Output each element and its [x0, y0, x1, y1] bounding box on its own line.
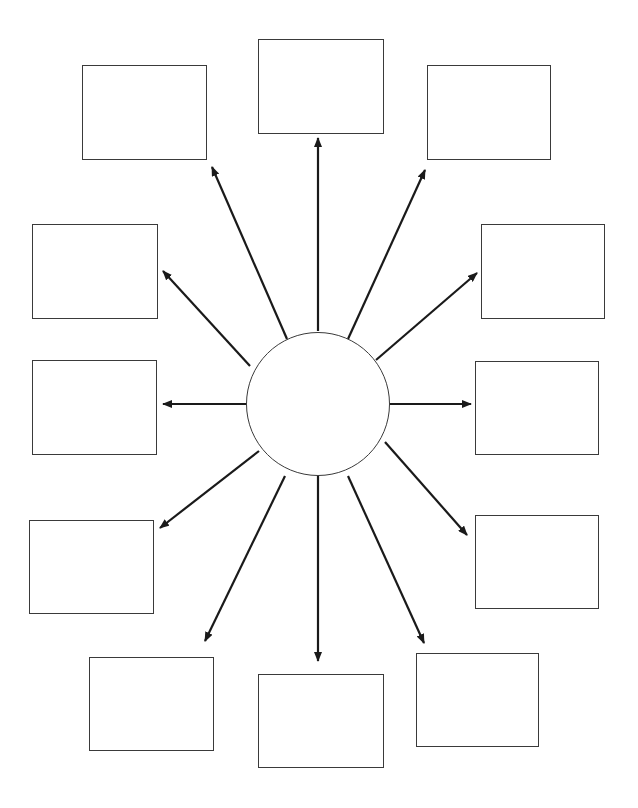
- box-bottom[interactable]: [258, 674, 384, 768]
- box-top-right[interactable]: [427, 65, 551, 160]
- arrow-to-lower-left: [160, 451, 259, 528]
- box-mid-left[interactable]: [32, 360, 157, 455]
- box-upper-left[interactable]: [32, 224, 158, 319]
- radial-web-diagram: [0, 0, 638, 808]
- box-top-left[interactable]: [82, 65, 207, 160]
- arrow-to-bottom-right: [348, 476, 424, 643]
- box-lower-right[interactable]: [475, 515, 599, 609]
- central-circle[interactable]: [246, 332, 390, 476]
- arrow-to-top-right: [348, 170, 425, 339]
- arrow-to-top-left: [212, 167, 287, 339]
- box-upper-right[interactable]: [481, 224, 605, 319]
- box-top[interactable]: [258, 39, 384, 134]
- box-lower-left[interactable]: [29, 520, 154, 614]
- arrow-to-upper-right: [376, 273, 477, 360]
- arrow-to-lower-right: [385, 442, 467, 535]
- box-mid-right[interactable]: [475, 361, 599, 455]
- box-bottom-right[interactable]: [416, 653, 539, 747]
- box-bottom-left[interactable]: [89, 657, 214, 751]
- arrow-to-bottom-left: [205, 476, 285, 641]
- arrow-to-upper-left: [163, 271, 250, 366]
